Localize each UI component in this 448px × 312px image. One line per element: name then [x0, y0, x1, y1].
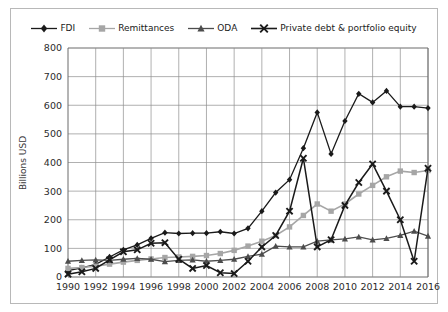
data-point-marker — [328, 151, 333, 157]
x-tick-label: 1994 — [111, 281, 135, 292]
data-point-marker — [204, 230, 209, 236]
x-tick-label: 2014 — [388, 281, 412, 292]
data-point-marker — [342, 118, 347, 124]
data-point-marker — [384, 174, 389, 179]
x-tick-label: 1998 — [167, 281, 191, 292]
y-tick-label: 500 — [44, 128, 62, 139]
data-point-marker — [411, 104, 416, 110]
data-point-marker — [315, 109, 320, 115]
data-point-marker — [398, 168, 403, 173]
data-point-marker — [411, 170, 416, 175]
y-tick-label: 800 — [44, 42, 62, 53]
data-point-marker — [218, 229, 223, 235]
y-tick-label: 400 — [44, 157, 62, 168]
data-point-marker — [356, 179, 362, 185]
x-tick-label: 2002 — [222, 281, 246, 292]
data-point-marker — [370, 183, 375, 188]
data-point-marker — [356, 91, 361, 97]
data-point-marker — [315, 201, 320, 206]
y-tick-labels: 0100200300400500600700800 — [44, 42, 62, 282]
y-axis-title: Billions USD — [18, 136, 28, 190]
y-tick-label: 200 — [44, 214, 62, 225]
data-point-marker — [218, 251, 223, 256]
x-tick-label: 2004 — [250, 281, 274, 292]
chart-svg: Billions USD 0100200300400500600700800 1… — [0, 0, 448, 312]
chart-container: FDI Remittances ODA Private debt & portf… — [0, 0, 448, 312]
x-tick-label: 1990 — [56, 281, 80, 292]
data-point-marker — [356, 191, 361, 196]
y-tick-label: 600 — [44, 100, 62, 111]
x-tick-label: 2006 — [277, 281, 301, 292]
data-point-marker — [259, 239, 264, 244]
x-tick-label: 1992 — [84, 281, 108, 292]
data-point-marker — [411, 228, 417, 234]
x-tick-label: 2016 — [416, 281, 440, 292]
data-point-marker — [231, 248, 236, 253]
data-point-marker — [287, 224, 292, 229]
x-tick-label: 2008 — [305, 281, 329, 292]
plot-area: Billions USD 0100200300400500600700800 1… — [0, 0, 448, 312]
y-tick-label: 100 — [44, 243, 62, 254]
data-point-marker — [65, 266, 70, 271]
data-point-marker — [176, 230, 181, 236]
data-point-marker — [425, 105, 430, 111]
x-tick-label: 1996 — [139, 281, 163, 292]
data-point-marker — [328, 208, 333, 213]
x-tick-label: 2010 — [333, 281, 357, 292]
series-layer — [65, 88, 431, 277]
y-axis-title-group: Billions USD — [18, 136, 28, 190]
data-point-marker — [259, 251, 265, 257]
y-tick-label: 700 — [44, 71, 62, 82]
data-point-marker — [204, 253, 209, 258]
y-tick-label: 300 — [44, 186, 62, 197]
data-point-marker — [301, 213, 306, 218]
x-tick-label: 2000 — [194, 281, 218, 292]
x-tick-labels: 1990199219941996199820002002200420062008… — [56, 281, 440, 292]
data-point-marker — [231, 230, 236, 236]
data-point-marker — [301, 145, 306, 151]
data-point-marker — [190, 230, 195, 236]
data-point-marker — [245, 258, 251, 264]
data-point-marker — [245, 243, 250, 248]
x-tick-label: 2012 — [361, 281, 385, 292]
data-point-marker — [162, 230, 167, 236]
